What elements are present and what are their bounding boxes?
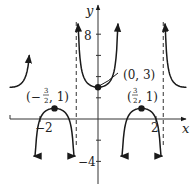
- point-label-right: ( 3 2 , 1): [127, 87, 158, 105]
- label-close: , 1): [138, 90, 158, 104]
- label-open: (: [127, 90, 132, 104]
- label-open: (−: [26, 90, 41, 104]
- frac-numerator: 3: [44, 87, 48, 95]
- frac-numerator: 3: [133, 87, 137, 95]
- curve-upper-right: [165, 24, 186, 88]
- y-axis-label: y: [85, 3, 94, 18]
- label-close: , 1): [49, 90, 69, 104]
- point-label-center: (0, 3): [123, 68, 155, 82]
- x-tick-label-2: 2: [151, 121, 159, 135]
- frac-denominator: 2: [44, 97, 48, 105]
- x-axis-label: x: [182, 121, 190, 136]
- frac-denominator: 2: [133, 97, 137, 105]
- x-tick-label-neg2: −2: [35, 121, 53, 135]
- y-tick-label-neg4: −4: [78, 155, 96, 169]
- secant-graph: y x 8 −4 −2 2 (0, 3) (− 3 2 , 1) ( 3 2 ,…: [0, 0, 195, 187]
- curve-upper-left: [10, 55, 30, 87]
- point-marker: [51, 105, 57, 111]
- point-label-left: (− 3 2 , 1): [26, 87, 69, 105]
- y-tick-label-8: 8: [84, 29, 92, 43]
- point-marker: [138, 105, 144, 111]
